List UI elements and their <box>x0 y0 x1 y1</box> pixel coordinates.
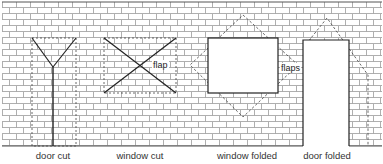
caption-door-cut: door cut <box>36 150 70 161</box>
caption-window-folded: window folded <box>217 150 277 161</box>
caption-door-folded: door folded <box>303 150 351 161</box>
brick-wall-diagram <box>0 0 383 164</box>
flap-label: flap <box>152 60 169 70</box>
caption-window-cut: window cut <box>117 150 164 161</box>
flaps-label: flaps <box>280 63 301 73</box>
